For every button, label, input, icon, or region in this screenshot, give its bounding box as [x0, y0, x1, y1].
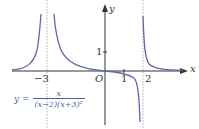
y-axis-label: y — [109, 4, 115, 14]
x-tick-label-1: 1 — [121, 74, 127, 84]
y-tick-label-1: 1 — [96, 47, 102, 57]
x-axis-label: x — [190, 64, 196, 74]
y-axis-arrow-icon — [102, 4, 108, 12]
plot-svg — [0, 0, 199, 129]
equation-fraction: x (x−2)(x+3)² — [33, 89, 85, 109]
graph-figure: x y O −3 1 2 1 y = x (x−2)(x+3)² — [0, 0, 199, 129]
equation-denominator: (x−2)(x+3)² — [33, 98, 85, 109]
curve-middle-branch-upper — [54, 14, 105, 71]
curve-left-branch — [12, 14, 41, 70]
x-tick-label-neg3: −3 — [34, 74, 49, 84]
origin-label: O — [95, 74, 103, 84]
equation-numerator: x — [54, 89, 63, 98]
equation-label: y = x (x−2)(x+3)² — [14, 89, 85, 109]
equation-lhs: y = — [14, 94, 30, 104]
curve-right-branch — [143, 16, 183, 71]
x-tick-label-2: 2 — [145, 74, 151, 84]
